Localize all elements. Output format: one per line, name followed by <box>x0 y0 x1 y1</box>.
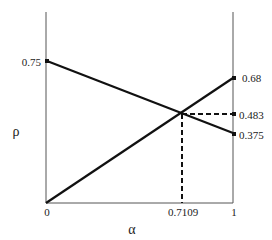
chart: 0.75 0.68 0.483 0.375 0 0.7109 1 α ρ <box>0 0 272 240</box>
right-value-label-mid: 0.483 <box>239 109 264 121</box>
right-value-label-bottom: 0.375 <box>239 129 264 141</box>
left-value-label: 0.75 <box>22 56 42 68</box>
marker-right-0483 <box>232 112 236 116</box>
marker-right-068 <box>232 76 236 80</box>
x-tick-07109: 0.7109 <box>168 206 199 218</box>
x-tick-1: 1 <box>231 206 237 218</box>
marker-right-0375 <box>232 132 236 136</box>
right-value-label-top: 0.68 <box>242 72 262 84</box>
x-axis-label: α <box>128 222 136 237</box>
y-axis-label: ρ <box>13 124 20 139</box>
x-tick-0: 0 <box>44 206 50 218</box>
marker-left-075 <box>45 59 49 63</box>
